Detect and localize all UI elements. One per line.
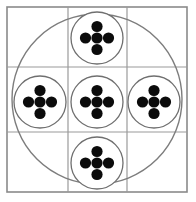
left-circle-dot-right <box>46 96 57 107</box>
right-circle-dot-right <box>160 96 171 107</box>
left-circle-dot-left <box>23 96 34 107</box>
bottom-circle-dot-center <box>91 157 102 168</box>
diagram-canvas: Five-circle quincunx grid diagram <box>0 0 196 202</box>
right-circle-dot-left <box>137 96 148 107</box>
top-circle-dot-center <box>91 32 102 43</box>
top-circle-dot-right <box>103 32 114 43</box>
top-circle-dot-top <box>91 21 102 32</box>
bottom-circle-dot-bottom <box>91 169 102 180</box>
top-circle-group <box>71 12 123 64</box>
left-circle-dot-top <box>34 85 45 96</box>
left-circle-dot-bottom <box>34 108 45 119</box>
left-circle-dot-center <box>34 96 45 107</box>
bottom-circle-group <box>71 137 123 189</box>
right-circle-dot-bottom <box>148 108 159 119</box>
center-circle-dot-right <box>103 96 114 107</box>
center-circle-group <box>71 76 123 128</box>
center-circle-dot-top <box>91 85 102 96</box>
center-circle-dot-center <box>91 96 102 107</box>
right-circle-dot-top <box>148 85 159 96</box>
top-circle-dot-left <box>80 32 91 43</box>
right-circle-group <box>128 76 180 128</box>
bottom-circle-dot-left <box>80 157 91 168</box>
bottom-circle-dot-right <box>103 157 114 168</box>
center-circle-dot-bottom <box>91 108 102 119</box>
bottom-circle-dot-top <box>91 146 102 157</box>
figure-svg: Five-circle quincunx grid diagram <box>0 0 196 202</box>
right-circle-dot-center <box>148 96 159 107</box>
left-circle-group <box>14 76 66 128</box>
top-circle-dot-bottom <box>91 44 102 55</box>
center-circle-dot-left <box>80 96 91 107</box>
